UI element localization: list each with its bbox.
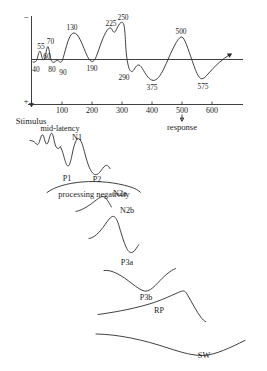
n2a-trace <box>76 197 111 212</box>
peak-label-290: 290 <box>118 73 129 82</box>
peak-label-90: 90 <box>59 68 67 77</box>
n2a-label: N2a <box>113 189 127 198</box>
x-tick-label-100: 100 <box>56 106 68 115</box>
x-tick-label-600: 600 <box>206 106 218 115</box>
x-tick-label-200: 200 <box>86 106 98 115</box>
peak-label-500: 500 <box>175 27 186 36</box>
n2b-trace <box>89 216 139 252</box>
rp-label: RP <box>154 306 164 315</box>
peak-label-225: 225 <box>105 19 116 28</box>
p3a-p3b-trace <box>104 269 176 291</box>
event-markers <box>30 100 184 122</box>
negative-sign-label: − <box>24 12 29 22</box>
x-tick-label-500: 500 <box>176 106 188 115</box>
peak-label-40: 40 <box>32 65 40 74</box>
peak-label-190: 190 <box>86 64 97 73</box>
x-axis-ticks: 100 200 300 400 500 600 <box>56 102 218 116</box>
peak-label-250: 250 <box>117 13 128 22</box>
p1-label: P1 <box>63 174 72 183</box>
p3b-label: P3b <box>140 293 153 302</box>
peak-label-70: 70 <box>47 37 55 46</box>
erp-diagram-svg: − + 100 200 300 400 500 600 <box>0 0 267 371</box>
response-caption: response <box>167 122 197 132</box>
mid-latency-trace <box>30 133 61 148</box>
positive-sign-label: + <box>24 96 29 106</box>
peak-label-130: 130 <box>66 23 77 32</box>
peak-label-60: 60 <box>43 52 51 61</box>
n2b-label: N2b <box>120 206 134 215</box>
peak-label-55: 55 <box>37 42 45 51</box>
n1-label: N1 <box>72 133 82 142</box>
peak-label-375: 375 <box>146 83 157 92</box>
peak-label-80: 80 <box>48 65 56 74</box>
peak-label-575: 575 <box>197 82 208 91</box>
sw-label: SW <box>198 351 211 360</box>
response-marker-arrow <box>180 115 184 122</box>
sw-group: SW <box>96 334 245 360</box>
n1-p1-p2-group: N1 P1 P2 <box>61 133 111 185</box>
p3a-p3b-group: P3a P3b <box>104 258 176 302</box>
sw-trace <box>96 334 245 355</box>
x-tick-label-400: 400 <box>146 106 158 115</box>
x-tick-label-300: 300 <box>116 106 128 115</box>
n1-p1-p2-trace <box>61 138 111 174</box>
n2a-n2b-group: N2a N2b <box>76 189 139 253</box>
p3a-label: P3a <box>121 258 134 267</box>
erp-figure: − + 100 200 300 400 500 600 <box>0 0 267 371</box>
stimulus-marker-arrow <box>30 100 34 107</box>
peak-latency-labels: 40 55 60 70 80 90 130 190 225 250 290 37… <box>32 13 209 93</box>
p2-label: P2 <box>93 175 102 184</box>
